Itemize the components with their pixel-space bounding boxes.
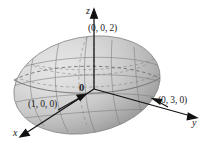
- ellipsoid-figure: z y x (0, 0, 2) (0, 3, 0) (1, 0, 0) 0: [0, 0, 210, 149]
- x-axis-label: x: [13, 128, 17, 138]
- y-axis-label: y: [192, 118, 196, 128]
- origin-label: 0: [79, 83, 84, 94]
- x-axis-arrowhead: [20, 130, 29, 137]
- z-axis-label: z: [86, 6, 90, 16]
- z-axis-arrowhead: [91, 9, 98, 18]
- z-intercept-label: (0, 0, 2): [88, 24, 117, 34]
- y-intercept-label: (0, 3, 0): [158, 96, 187, 106]
- x-intercept-label: (1, 0, 0): [28, 100, 57, 110]
